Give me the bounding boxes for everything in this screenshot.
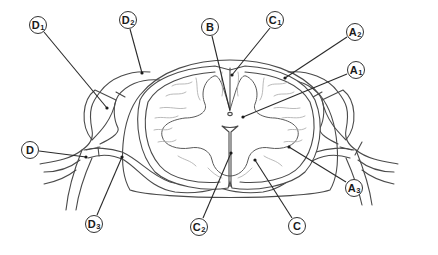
label-D2: D2 [119, 11, 137, 29]
leader-D2 [130, 29, 142, 73]
pointer-D1 [105, 106, 108, 109]
leader-D3 [97, 157, 122, 215]
label-subscript: 2 [357, 31, 361, 39]
pointer-C [253, 158, 256, 161]
label-D: D [21, 141, 39, 159]
label-C: C [288, 217, 306, 235]
leader-B [212, 36, 230, 111]
label-letter: A [349, 27, 357, 38]
label-A1: A1 [347, 61, 365, 79]
label-letter: D [88, 219, 96, 230]
pointer-D2 [140, 71, 143, 74]
label-letter: C [269, 15, 277, 26]
label-letter: D [26, 145, 34, 156]
label-subscript: 1 [277, 19, 281, 27]
label-subscript: 2 [130, 19, 134, 27]
pointer-C1 [230, 73, 233, 76]
label-letter: C [193, 222, 201, 233]
spinal-cord-diagram: D1 D2 B C1 A2 A1 D D3 C2 C A3 [0, 0, 438, 255]
label-D3: D3 [85, 215, 103, 233]
label-subscript: 1 [358, 69, 362, 77]
leader-A3 [289, 147, 346, 182]
pointer-A2 [283, 76, 286, 79]
label-letter: B [206, 22, 214, 33]
label-D1: D1 [29, 16, 47, 34]
pointer-D3 [120, 155, 123, 158]
label-letter: A [348, 183, 356, 194]
leader-C1 [232, 28, 270, 75]
leader-lines [0, 0, 438, 255]
label-A3: A3 [345, 179, 363, 197]
label-C2: C2 [190, 218, 208, 236]
label-subscript: 3 [96, 223, 100, 231]
label-letter: C [293, 221, 301, 232]
pointer-C2 [229, 151, 232, 154]
leader-A1 [243, 74, 347, 117]
leader-C2 [203, 153, 231, 218]
label-letter: D [32, 20, 40, 31]
leader-D1 [44, 32, 107, 108]
leader-A2 [285, 37, 347, 78]
label-subscript: 2 [201, 226, 205, 234]
label-letter: A [350, 65, 358, 76]
label-subscript: 1 [40, 24, 44, 32]
label-A2: A2 [346, 23, 364, 41]
leader-C [255, 160, 292, 218]
label-B: B [201, 18, 219, 36]
label-letter: D [122, 15, 130, 26]
pointer-A3 [287, 145, 290, 148]
leader-D [39, 151, 86, 157]
label-C1: C1 [266, 11, 284, 29]
pointer-A1 [241, 115, 244, 118]
pointer-D [84, 155, 87, 158]
label-subscript: 3 [356, 187, 360, 195]
